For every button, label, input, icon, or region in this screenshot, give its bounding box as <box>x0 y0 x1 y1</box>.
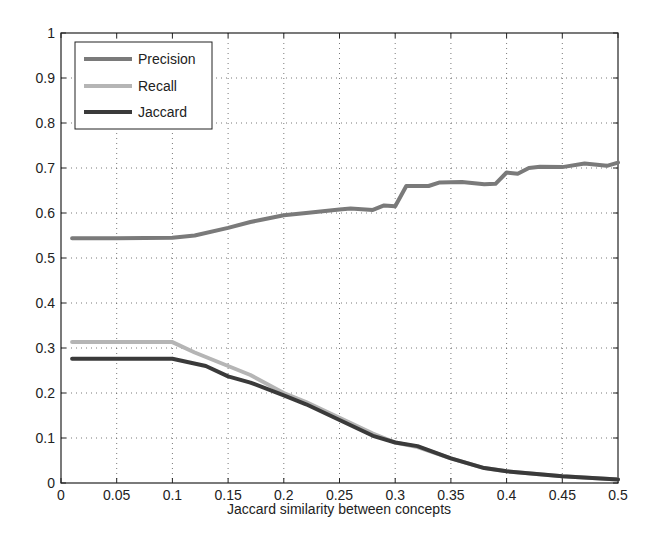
x-tick-label: 0.45 <box>549 487 576 503</box>
x-tick-label: 0 <box>57 487 65 503</box>
y-tick-label: 0.4 <box>36 295 56 311</box>
x-tick-label: 0.1 <box>163 487 183 503</box>
y-tick-label: 0 <box>47 475 55 491</box>
legend-label-jaccard: Jaccard <box>138 104 187 120</box>
y-tick-label: 0.9 <box>36 70 56 86</box>
y-tick-label: 0.3 <box>36 340 56 356</box>
y-tick-label: 0.2 <box>36 385 56 401</box>
data-series <box>72 163 618 480</box>
y-tick-label: 0.1 <box>36 430 56 446</box>
x-axis-label: Jaccard similarity between concepts <box>227 501 451 517</box>
x-tick-label: 0.5 <box>608 487 628 503</box>
y-tick-label: 0.7 <box>36 160 56 176</box>
x-tick-label: 0.4 <box>497 487 517 503</box>
series-line-recall <box>72 342 618 479</box>
line-chart: 00.050.10.150.20.250.30.350.40.450.500.1… <box>0 0 660 553</box>
series-line-precision <box>72 163 618 239</box>
legend-label-precision: Precision <box>138 51 196 67</box>
legend: Precision Recall Jaccard <box>75 42 212 129</box>
y-tick-label: 1 <box>47 25 55 41</box>
y-tick-label: 0.5 <box>36 250 56 266</box>
x-tick-label: 0.05 <box>103 487 130 503</box>
legend-label-recall: Recall <box>138 78 177 94</box>
y-tick-label: 0.8 <box>36 115 56 131</box>
y-tick-label: 0.6 <box>36 205 56 221</box>
